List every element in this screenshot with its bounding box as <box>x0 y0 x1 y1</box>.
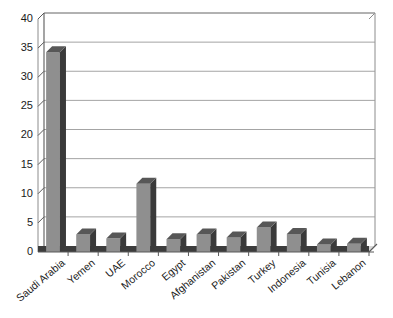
y-tick <box>38 130 44 136</box>
bar-front-face <box>166 239 180 252</box>
bar-front-face <box>227 237 241 252</box>
y-tick-label: 20 <box>21 128 33 140</box>
y-tick-label: 5 <box>27 216 33 228</box>
bar-front-face <box>257 228 271 252</box>
x-tick-label: Lebanon <box>329 256 368 292</box>
bar-front-face <box>136 184 150 252</box>
y-tick <box>38 71 44 77</box>
bar-front-face <box>197 235 211 252</box>
x-tick-label: Morocco <box>119 256 158 291</box>
bar-side-face <box>150 178 156 252</box>
bar <box>227 231 247 252</box>
bar <box>136 178 156 252</box>
bar <box>46 46 66 252</box>
y-tick <box>38 42 44 48</box>
bar <box>287 228 307 252</box>
bar-front-face <box>287 234 301 252</box>
bar-side-face <box>60 46 66 252</box>
y-tick-label: 40 <box>21 12 33 24</box>
y-tick <box>38 159 44 165</box>
x-axis: Saudi ArabiaYemenUAEMoroccoEgyptAfghanis… <box>14 252 369 304</box>
bar-front-face <box>347 244 361 252</box>
bar-front-face <box>76 235 90 252</box>
y-tick <box>38 217 44 223</box>
bar <box>257 222 277 252</box>
bar-front-face <box>317 244 331 252</box>
y-tick-label: 25 <box>21 99 33 111</box>
y-tick-label: 0 <box>27 245 33 257</box>
bar-front-face <box>46 52 60 252</box>
y-tick <box>38 13 44 19</box>
x-tick-label: UAE <box>103 256 127 279</box>
bar-chart: 0510152025303540 Saudi ArabiaYemenUAEMor… <box>0 0 393 318</box>
bar <box>76 229 96 252</box>
x-tick-label: Yemen <box>65 256 98 286</box>
bar-front-face <box>106 239 120 252</box>
y-tick <box>38 188 44 194</box>
x-tick-label: Pakistan <box>209 256 248 291</box>
chart-canvas: 0510152025303540 Saudi ArabiaYemenUAEMor… <box>0 0 393 318</box>
y-tick-label: 35 <box>21 41 33 53</box>
y-tick-label: 10 <box>21 187 33 199</box>
y-tick-label: 15 <box>21 158 33 170</box>
y-tick-label: 30 <box>21 70 33 82</box>
x-tick-label: Saudi Arabia <box>14 256 67 304</box>
bar <box>197 229 217 252</box>
y-tick <box>38 100 44 106</box>
